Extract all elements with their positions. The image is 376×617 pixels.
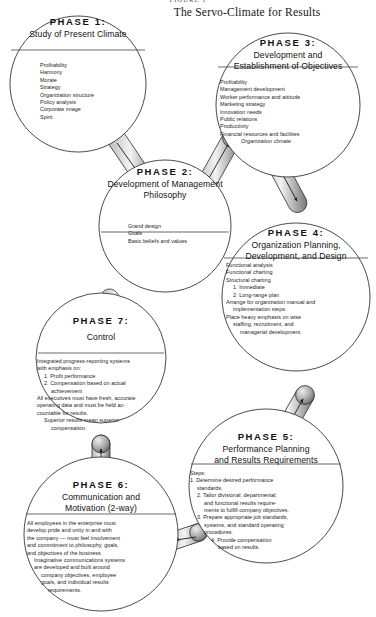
phase5-item: 2. Tailor divisional, departmental,	[190, 492, 342, 499]
phase7-item: 2. Compensation based on actual	[37, 380, 165, 387]
phase3-title-line: Development and	[216, 50, 360, 61]
phase3-title-line: Establishment of Objectives	[216, 61, 360, 72]
phase6-title-line: Communication and	[25, 492, 177, 503]
phase4-item: staffing, recruitment, and	[226, 321, 374, 328]
phase5-item: standards.	[190, 485, 342, 492]
phase3-item: Public relations	[220, 116, 364, 123]
phase6-item: are developed and built around	[27, 564, 179, 571]
phase1-item: Strategy	[40, 84, 176, 91]
phase6-item: Imaginative communications systems	[27, 557, 179, 564]
phase2-label: PHASE 2:	[99, 166, 231, 177]
phase7-item: Superior results mean superior	[37, 417, 165, 424]
phase6-item: company objectives, employee	[27, 572, 179, 579]
phase5-item: procedures.	[190, 529, 342, 536]
phase4-item: 2. Long-range plan	[226, 292, 374, 299]
phase3-item: Management development	[220, 86, 364, 93]
phase4-body: Functional analysis Functional charting …	[222, 262, 374, 336]
phase3-item: Financial resources and facilities	[220, 131, 364, 138]
phase6-item: requirements.	[27, 587, 179, 594]
phase5-item: 4. Provide compensation	[190, 537, 342, 544]
phase6-title-line: Motivation (2-way)	[25, 503, 177, 514]
phase1-item: Profitability	[40, 62, 176, 69]
phase5-item: Steps:	[190, 470, 342, 477]
phase1-item: Organization structure	[40, 92, 176, 99]
phase3-item: Profitability	[220, 79, 364, 86]
phase6-item: goals, and individual results	[27, 579, 179, 586]
phase5-item: 3. Prepare appropriate job standards,	[190, 514, 342, 521]
phase1-title: Study of Present Climate	[10, 29, 146, 40]
figure-canvas: FIGURE 1 The Servo-Climate for Results	[0, 0, 376, 617]
phase4-label: PHASE 4:	[222, 227, 370, 238]
phase4-title-line: Organization Planning,	[222, 240, 370, 251]
phase4-item: Functional charting	[226, 269, 374, 276]
phase4-item: 1. Immediate	[226, 284, 374, 291]
phase7-item: compensation.	[37, 425, 165, 432]
phase5-body: Steps: 1. Determine desired performance …	[190, 470, 342, 551]
phase7-body: Integrated progress-reporting systems wi…	[37, 358, 165, 432]
phase5-item: systems, and standard operating	[190, 522, 342, 529]
phase6-item: develop pride and unity in and with	[27, 527, 179, 534]
phase7-item: All executives must have fresh, accurate	[37, 395, 165, 402]
phase7-label: PHASE 7:	[37, 315, 165, 326]
phase5-title-line: and Results Requirements	[190, 455, 342, 466]
phase7-title-line: Control	[37, 332, 165, 343]
phase3-item: Innovation needs	[220, 109, 364, 116]
phase3-item: Worker performance and attitude	[220, 94, 364, 101]
phase4-item: Place heavy emphasis on wise	[226, 314, 374, 321]
phase4-title-line: Development, and Design	[222, 251, 370, 262]
phase3-label: PHASE 3:	[216, 37, 360, 48]
phase7-item: operating data and must be held ac-	[37, 402, 165, 409]
phase2-title-line: Development of Management	[99, 179, 231, 190]
phase5-label: PHASE 5:	[190, 431, 342, 442]
phase1-item: Policy analysis	[40, 99, 176, 106]
phase4-item: Structural charting	[226, 277, 374, 284]
phase7-item: countable for results.	[37, 410, 165, 417]
phase3-item: Marketing strategy	[220, 101, 364, 108]
phase4-item: managerial development.	[226, 329, 374, 336]
phase6-body: All employees in the enterprise must dev…	[25, 520, 179, 594]
phase3-item: Organization climate	[220, 138, 364, 145]
phase5-item: ments to fulfill company objectives.	[190, 507, 342, 514]
phase1-item: Spirit	[40, 114, 176, 121]
phase4-item: Functional analysis	[226, 262, 374, 269]
phase5-item: 1. Determine desired performance	[190, 477, 342, 484]
phase2-title-line: Philosophy	[99, 190, 231, 201]
phase6-item: All employees in the enterprise must	[27, 520, 179, 527]
phase7-item: with emphasis on:	[37, 365, 165, 372]
phase4-item: Arrange for organization manual and	[226, 299, 374, 306]
phase7-item: achievement	[37, 388, 165, 395]
phase6-item: and objectives of the business.	[27, 550, 179, 557]
phase1-item: Corporate image	[40, 106, 176, 113]
phase3-body: Profitability Management development Wor…	[216, 79, 364, 146]
phase1-item: Harmony	[40, 69, 176, 76]
phase5-title-line: Performance Planning	[190, 444, 342, 455]
phase1-item: Morale	[40, 77, 176, 84]
phase6-label: PHASE 6:	[25, 479, 177, 490]
phase6-item: and commitment to philosophy, goals,	[27, 542, 179, 549]
phase4-item: implementation steps.	[226, 306, 374, 313]
phase1-label: PHASE 1:	[10, 16, 146, 27]
phase5-item: and functional results require-	[190, 500, 342, 507]
phase1-body: Profitability Harmony Morale Strategy Or…	[10, 62, 176, 121]
phase6-item: the company — must feel involvement	[27, 535, 179, 542]
phase7-item: 1. Profit performance	[37, 373, 165, 380]
phase3-item: Productivity	[220, 123, 364, 130]
phase5-item: based on results.	[190, 544, 342, 551]
phase7-item: Integrated progress-reporting systems	[37, 358, 165, 365]
